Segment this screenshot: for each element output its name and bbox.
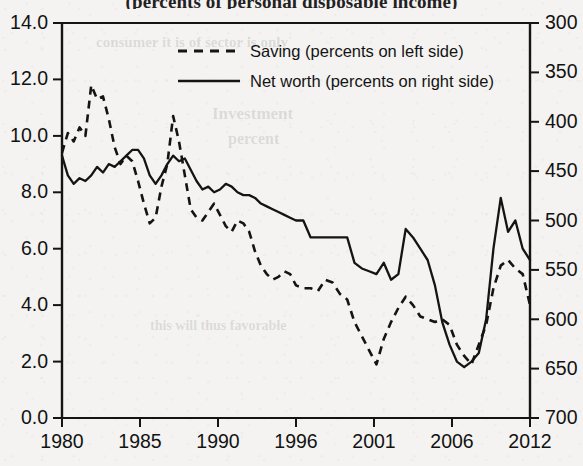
x-tick-2001: 2001 [334, 430, 414, 453]
x-tick-2012: 2012 [490, 430, 570, 453]
left-tick-6: 6.0 [0, 237, 48, 260]
left-axis-ticks [53, 23, 62, 418]
x-tick-1985: 1985 [100, 430, 180, 453]
right-tick-600: 600 [545, 308, 583, 331]
right-tick-350: 350 [545, 60, 583, 83]
right-tick-450: 450 [545, 159, 583, 182]
right-tick-700: 700 [545, 406, 583, 429]
legend-label-networth: Net worth (percents on right side) [250, 72, 494, 90]
left-tick-14: 14.0 [0, 11, 48, 34]
x-tick-2006: 2006 [412, 430, 492, 453]
left-tick-0: 0.0 [0, 406, 48, 429]
legend-label-saving: Saving (percents on left side) [250, 42, 464, 60]
x-tick-1980: 1980 [22, 430, 102, 453]
x-tick-1990: 1990 [178, 430, 258, 453]
left-tick-12: 12.0 [0, 67, 48, 90]
bottom-axis-ticks [62, 418, 530, 427]
right-tick-650: 650 [545, 357, 583, 380]
right-tick-400: 400 [545, 110, 583, 133]
right-tick-500: 500 [545, 209, 583, 232]
series-line-net-worth [62, 150, 530, 367]
series-line-saving [62, 85, 530, 364]
left-tick-4: 4.0 [0, 293, 48, 316]
left-tick-8: 8.0 [0, 180, 48, 203]
right-tick-300: 300 [545, 11, 583, 34]
chart-plot-area: Saving (percents on left side) Net worth… [0, 0, 583, 466]
right-axis-ticks [530, 23, 539, 418]
right-tick-550: 550 [545, 258, 583, 281]
left-tick-2: 2.0 [0, 350, 48, 373]
chart-root: Investment percent this will thus favora… [0, 0, 583, 466]
x-tick-1996: 1996 [256, 430, 336, 453]
left-tick-10: 10.0 [0, 124, 48, 147]
